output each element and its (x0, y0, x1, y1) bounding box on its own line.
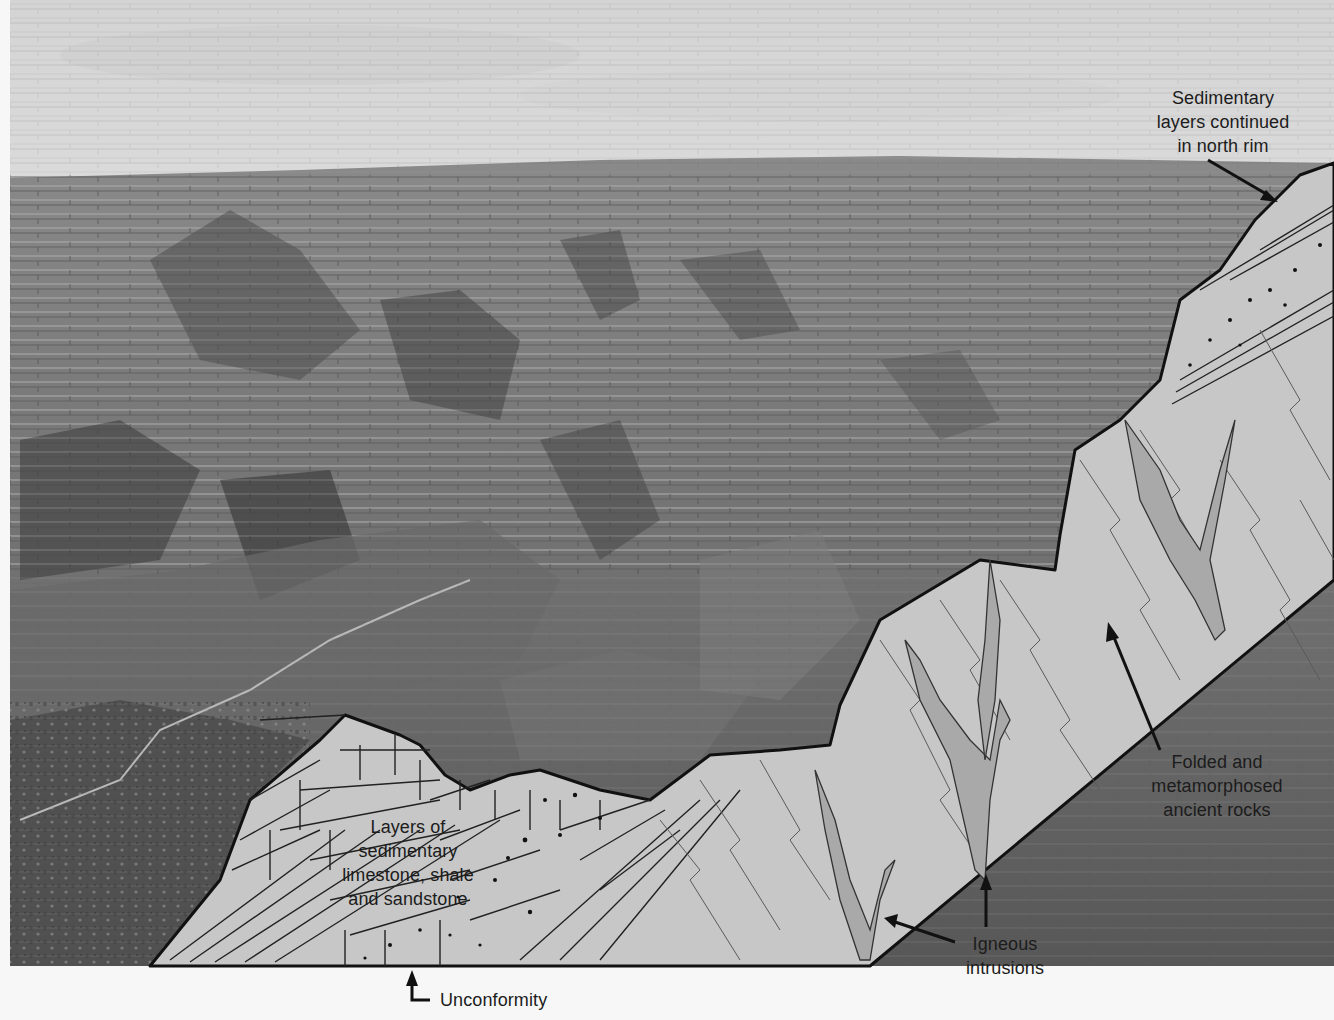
label-igneous-intrusions: Igneous intrusions (950, 932, 1060, 980)
label-metamorphic-rocks: Folded and metamorphosed ancient rocks (1138, 750, 1296, 822)
figure-canvas: Sedimentary layers continued in north ri… (0, 0, 1334, 1020)
label-unconformity: Unconformity (440, 988, 547, 1012)
label-north-rim: Sedimentary layers continued in north ri… (1138, 86, 1308, 158)
label-sedimentary-layers: Layers of sedimentary limestone, shale a… (324, 815, 492, 911)
diagram-artwork (0, 0, 1334, 1020)
